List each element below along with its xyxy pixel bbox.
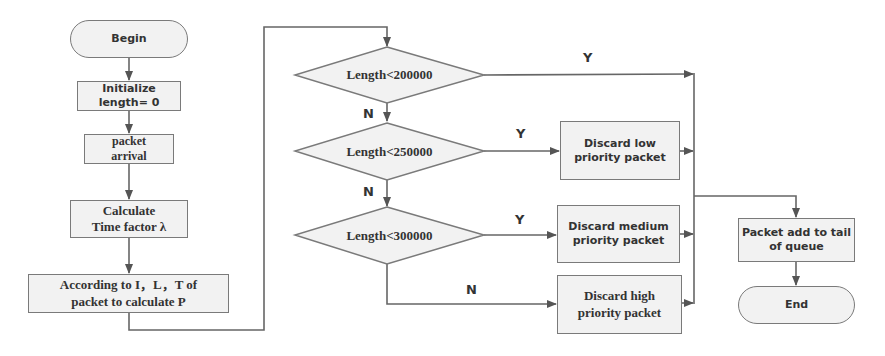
flowchart: Begin Initialize length= 0 packet arriva… <box>0 0 885 356</box>
calculate-label-line2: Time factor λ <box>92 219 167 235</box>
discard-low-box: Discard low priority packet <box>560 121 680 180</box>
calculate-p-box: According to I，L，T of packet to calculat… <box>28 274 229 313</box>
according-label-line2: packet to calculate P <box>71 294 185 310</box>
discard-high-label-line1: Discard high <box>584 288 655 304</box>
d3-yes-label: Y <box>515 212 524 227</box>
decision-1-label: Length<200000 <box>295 47 484 103</box>
packet-arrival-label-line2: arrival <box>111 149 146 164</box>
calculate-time-factor-box: Calculate Time factor λ <box>70 200 188 238</box>
d1-no-label: N <box>363 106 374 121</box>
end-label: End <box>785 298 808 312</box>
packet-arrival-label-line1: packet <box>112 134 146 149</box>
discard-medium-box: Discard medium priority packet <box>557 205 680 263</box>
packet-add-label-line2: of queue <box>769 240 824 254</box>
discard-high-label-line2: priority packet <box>578 305 661 321</box>
packet-arrival-box: packet arrival <box>84 134 174 164</box>
begin-label: Begin <box>111 32 146 46</box>
begin-terminal: Begin <box>70 20 188 58</box>
decision-3-label: Length<300000 <box>295 207 484 264</box>
initialize-label-line2: length= 0 <box>99 96 160 110</box>
initialize-box: Initialize length= 0 <box>77 81 181 111</box>
decision-2-label: Length<250000 <box>295 123 484 180</box>
discard-low-label-line1: Discard low <box>584 137 656 151</box>
packet-add-tail-box: Packet add to tail of queue <box>738 218 855 262</box>
end-terminal: End <box>738 286 855 324</box>
discard-medium-label-line1: Discard medium <box>568 220 668 234</box>
d3-no-label: N <box>466 282 477 297</box>
d2-yes-label: Y <box>516 126 525 141</box>
packet-add-label-line1: Packet add to tail <box>742 226 851 240</box>
calculate-label-line1: Calculate <box>103 203 156 219</box>
d1-yes-label: Y <box>583 50 592 65</box>
discard-medium-label-line2: priority packet <box>573 234 665 248</box>
discard-low-label-line2: priority packet <box>574 151 666 165</box>
according-label-line1: According to I，L，T of <box>60 277 197 293</box>
discard-high-box: Discard high priority packet <box>557 275 682 334</box>
initialize-label-line1: Initialize <box>102 82 156 96</box>
d2-no-label: N <box>363 184 374 199</box>
